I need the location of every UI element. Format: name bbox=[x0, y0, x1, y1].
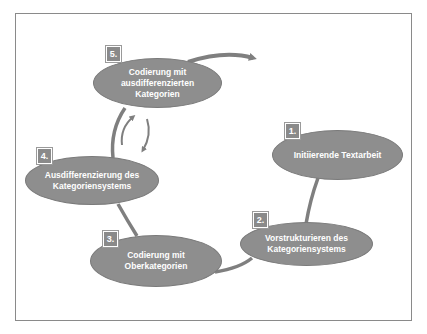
iteration-arrow-down bbox=[143, 119, 149, 150]
step-4-badge: 4. bbox=[37, 148, 52, 164]
step-5-node: Codierung mit ausdifferenzierten Kategor… bbox=[93, 58, 222, 108]
step-3-label: Codierung mit Oberkategorien bbox=[125, 250, 188, 272]
step-2-node: Vorstrukturieren des Kategoriensystems bbox=[240, 222, 373, 266]
step-5-label: Codierung mit ausdifferenzierten Kategor… bbox=[121, 67, 194, 100]
connector-1-2 bbox=[306, 178, 318, 224]
exit-arrow bbox=[188, 55, 253, 62]
step-4-label: Ausdifferenzierung des Kategoriensystems bbox=[45, 170, 139, 192]
iteration-arrow-up bbox=[122, 117, 133, 145]
step-5-badge: 5. bbox=[106, 46, 121, 62]
step-2-label: Vorstrukturieren des Kategoriensystems bbox=[265, 233, 348, 255]
connector-3-4 bbox=[118, 204, 137, 236]
step-3-badge: 3. bbox=[103, 231, 118, 247]
step-2-badge: 2. bbox=[253, 212, 268, 228]
step-1-label: Initiierende Textarbeit bbox=[294, 150, 382, 161]
step-1-badge: 1. bbox=[285, 123, 300, 139]
